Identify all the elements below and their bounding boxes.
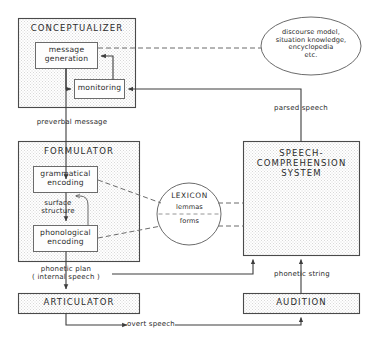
message-generation-box (36, 43, 98, 69)
audition-box (244, 294, 360, 314)
diagram-canvas (0, 0, 376, 339)
monitoring-box (75, 80, 125, 99)
lexicon-ellipse (157, 183, 221, 245)
articulator-box (19, 294, 140, 314)
phonological-encoding-box (34, 226, 98, 252)
speech-production-diagram: CONCEPTUALIZER FORMULATOR SPEECH- COMPRE… (0, 0, 376, 339)
speech-comprehension-system-box (244, 142, 360, 256)
discourse-knowledge-ellipse (261, 17, 361, 75)
